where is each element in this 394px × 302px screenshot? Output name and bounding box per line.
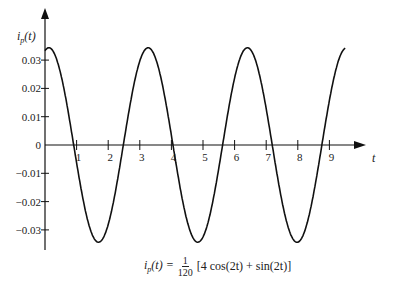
x-tick-label: 3 <box>139 151 145 163</box>
y-tick-label: 0 <box>36 139 42 151</box>
x-tick-label: 2 <box>107 151 113 163</box>
x-tick-label: 7 <box>265 151 271 163</box>
y-tick-label: −0.03 <box>16 224 42 236</box>
y-tick-label: 0.02 <box>22 82 41 94</box>
function-formula: ip(t) = 1120 [4 cos(2t) + sin(2t)] <box>144 255 291 278</box>
y-tick-label: 0.03 <box>22 54 42 66</box>
axes <box>41 8 366 250</box>
x-axis-label: t <box>372 151 376 165</box>
y-tick-label: −0.01 <box>16 167 41 179</box>
x-tick-label: 5 <box>202 151 208 163</box>
x-tick-label: 6 <box>234 151 240 163</box>
y-tick-label: 0.01 <box>22 111 41 123</box>
y-axis-label: ip(t) <box>17 29 36 45</box>
y-axis-arrow-icon <box>41 8 49 19</box>
x-tick-label: 9 <box>329 151 335 163</box>
x-axis-arrow-icon <box>354 141 366 149</box>
x-tick-label: 8 <box>297 151 303 163</box>
fraction: 1120 <box>178 255 193 278</box>
y-tick-label: −0.02 <box>16 196 41 208</box>
